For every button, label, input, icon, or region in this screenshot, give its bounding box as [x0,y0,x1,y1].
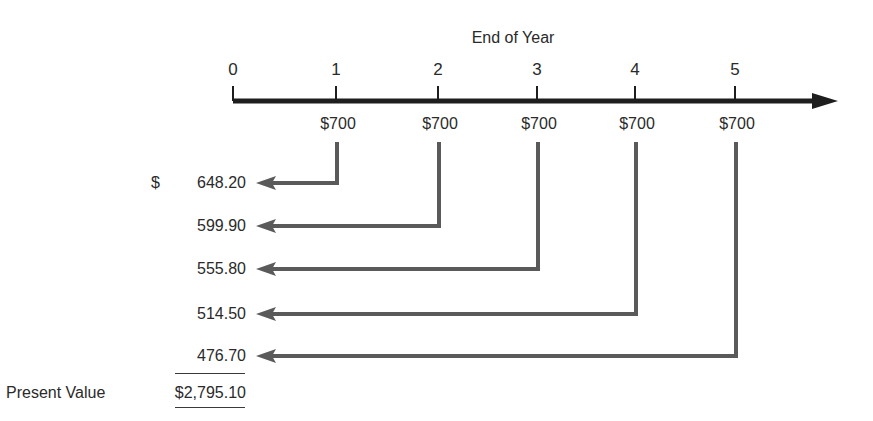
cash-flow-year-2: $700 [405,115,475,133]
cash-flow-year-5: $700 [702,115,772,133]
currency-symbol: $ [151,174,160,192]
present-value-5: 476.70 [197,347,246,365]
timeline-graphics [0,0,873,421]
cash-flow-year-1: $700 [303,115,373,133]
cash-flow-year-3: $700 [504,115,574,133]
discount-arrow-5 [272,142,736,356]
present-value-total: $2,795.10 [175,384,246,402]
present-value-1: 648.20 [197,174,246,192]
present-value-label: Present Value [6,384,105,402]
present-value-4: 514.50 [197,305,246,323]
discount-arrows [272,142,736,356]
axis-arrowhead-icon [812,93,838,109]
cash-flow-year-4: $700 [602,115,672,133]
discount-arrow-3 [272,142,538,269]
timeline-axis [233,86,838,109]
present-value-2: 599.90 [197,217,246,235]
present-value-3: 555.80 [197,260,246,278]
discount-arrow-1 [272,142,337,183]
total-underline [175,407,245,408]
sum-rule [175,373,245,374]
